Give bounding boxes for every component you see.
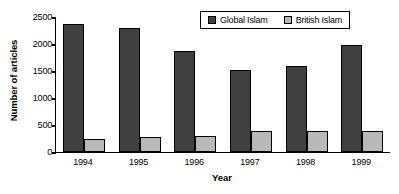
bar (195, 136, 216, 152)
y-axis-tick-labels: 25002000150010005000 (22, 12, 52, 152)
y-axis-title-label: Number of articles (9, 39, 20, 121)
bar (119, 28, 140, 152)
x-axis-tick-label: 1999 (333, 157, 389, 167)
bar (140, 137, 161, 152)
bar (362, 131, 383, 152)
x-axis-tick-label: 1998 (278, 157, 334, 167)
bar (174, 51, 195, 152)
y-axis-tick-label: 2500 (22, 13, 52, 22)
x-axis-tick-label: 1994 (55, 157, 111, 167)
bar (230, 70, 251, 152)
bar-group (112, 17, 168, 152)
bar-group (223, 17, 279, 152)
legend-entry: Global Islam (208, 15, 268, 25)
bar (63, 24, 84, 152)
bar (341, 45, 362, 152)
y-axis-tick-mark (52, 17, 56, 19)
x-axis-tick-label: 1995 (111, 157, 167, 167)
bar-chart-figure: Number of articles 25002000150010005000 … (0, 0, 399, 194)
y-axis-tick-mark (52, 71, 56, 73)
bar-group (56, 17, 112, 152)
legend-label: Global Islam (220, 15, 268, 25)
x-axis-tick-label: 1996 (166, 157, 222, 167)
legend-entry: British Islam (284, 15, 342, 25)
legend-swatch-icon (284, 16, 292, 24)
y-axis-tick-mark (52, 125, 56, 127)
bar-group (279, 17, 335, 152)
y-axis-tick-label: 500 (22, 121, 52, 130)
y-axis-tick-mark (52, 98, 56, 100)
bar (307, 131, 328, 152)
x-axis-tick-labels: 199419951996199719981999 (55, 157, 389, 167)
bar-group (167, 17, 223, 152)
chart-legend: Global IslamBritish Islam (200, 11, 350, 29)
y-axis-tick-label: 2000 (22, 40, 52, 49)
x-axis-title: Year (55, 172, 389, 183)
y-axis-tick-label: 1000 (22, 94, 52, 103)
plot-area (55, 17, 390, 153)
bar-group (334, 17, 390, 152)
y-axis-tick-label: 1500 (22, 67, 52, 76)
legend-swatch-icon (208, 16, 216, 24)
y-axis-tick-label: 0 (22, 148, 52, 157)
legend-label: British Islam (296, 15, 342, 25)
bar (286, 66, 307, 152)
bar (84, 139, 105, 152)
y-axis-tick-mark (52, 152, 56, 154)
bar (251, 131, 272, 152)
y-axis-tick-mark (52, 44, 56, 46)
bars-layer (56, 17, 390, 152)
x-axis-tick-label: 1997 (222, 157, 278, 167)
